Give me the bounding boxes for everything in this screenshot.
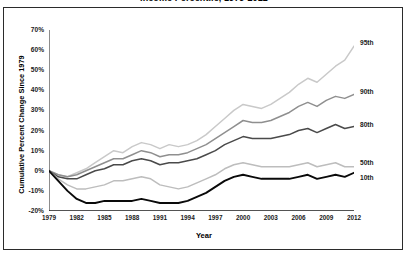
chart-svg — [49, 30, 354, 211]
y-tick-label: 50% — [10, 66, 44, 73]
y-tick-label: 0% — [10, 167, 44, 174]
y-tick-label: 20% — [10, 127, 44, 134]
series-line-90th — [49, 94, 354, 176]
y-tick-label: -10% — [10, 187, 44, 194]
series-label-95th: 95th — [360, 39, 374, 46]
chart-root: Income Percentile, 1979-2012 Cumulative … — [0, 0, 408, 255]
x-tick-label: 2012 — [334, 214, 374, 221]
y-tick-label: 40% — [10, 86, 44, 93]
series-label-80th: 80th — [360, 121, 374, 128]
series-label-50th: 50th — [360, 159, 374, 166]
y-tick-label: 60% — [10, 46, 44, 53]
y-tick-label: 30% — [10, 106, 44, 113]
y-tick-label: 10% — [10, 147, 44, 154]
series-label-90th: 90th — [360, 88, 374, 95]
chart-title: Income Percentile, 1979-2012 — [0, 0, 408, 3]
y-tick-label: -20% — [10, 207, 44, 214]
plot-area: 70%60%50%40%30%20%10%0%-10%-20%197919821… — [49, 30, 354, 211]
series-line-80th — [49, 125, 354, 179]
series-label-10th: 10th — [360, 174, 374, 181]
y-tick-label: 70% — [10, 26, 44, 33]
x-axis-title: Year — [0, 231, 408, 240]
